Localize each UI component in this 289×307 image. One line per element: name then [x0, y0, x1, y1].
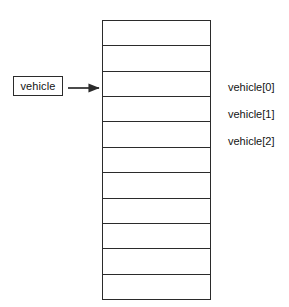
pointer-variable-label: vehicle: [21, 81, 56, 92]
array-cell: [103, 275, 210, 299]
array-cell: [103, 199, 210, 224]
array-cell: [103, 224, 210, 249]
array-cell: [103, 72, 210, 97]
array-cell: [103, 46, 210, 71]
array-index-label-1: vehicle[1]: [228, 109, 274, 120]
vehicle-array: [102, 20, 211, 300]
array-cell: [103, 21, 210, 46]
array-cell: [103, 173, 210, 198]
array-cell: [103, 148, 210, 173]
array-index-label-2: vehicle[2]: [228, 136, 274, 147]
array-cell: [103, 249, 210, 274]
array-index-label-0: vehicle[0]: [228, 82, 274, 93]
diagram-canvas: vehicle vehicle[0] vehicle[1] vehicle[2]: [0, 0, 289, 307]
array-cell: [103, 122, 210, 147]
pointer-variable-box: vehicle: [13, 76, 63, 96]
array-cell: [103, 97, 210, 122]
